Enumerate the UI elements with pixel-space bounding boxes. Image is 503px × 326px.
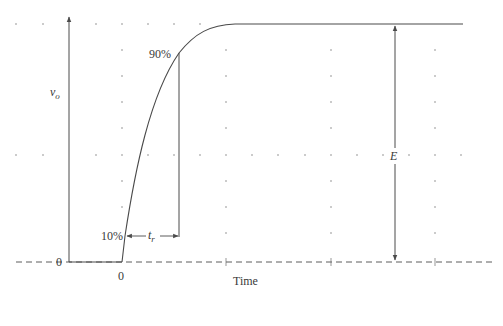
x-axis-label: Time — [233, 274, 258, 288]
ninety-percent-label: 90% — [149, 47, 171, 61]
rise-time-label: tr — [148, 228, 155, 244]
amplitude-label: E — [389, 149, 398, 163]
response-curve — [122, 24, 463, 262]
origin-x-label: 0 — [118, 269, 124, 283]
origin-y-label: 0 — [56, 255, 62, 269]
ten-percent-label: 10% — [101, 229, 123, 243]
rise-time-diagram: vo 90% 10% tr E 0 0 Time — [0, 0, 503, 326]
y-axis-label: vo — [50, 85, 60, 101]
